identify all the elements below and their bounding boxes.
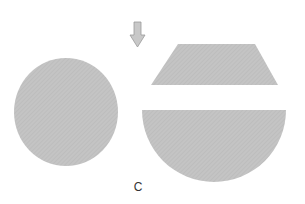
figure-label: C xyxy=(128,180,148,194)
diagram-canvas xyxy=(0,0,305,204)
circular-segment-shape xyxy=(142,110,286,182)
down-arrow-icon xyxy=(130,22,145,47)
trapezoid-shape xyxy=(151,44,278,85)
circle-shape xyxy=(14,58,118,166)
